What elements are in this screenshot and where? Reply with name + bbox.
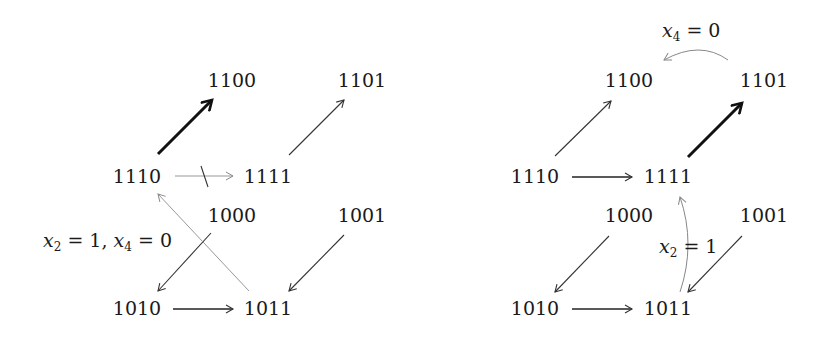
node-1001: 1001: [338, 204, 386, 226]
node-1000: 1000: [605, 204, 653, 226]
node-1110: 1110: [113, 165, 161, 187]
node-1111: 1111: [644, 165, 692, 187]
node-1101: 1101: [740, 69, 788, 91]
diagram-canvas: 1100 1101 1110 1111 1000 1001 1010 1011 …: [0, 0, 822, 344]
left-diagram: 1100 1101 1110 1111 1000 1001 1010 1011 …: [43, 69, 386, 319]
node-1010: 1010: [511, 297, 559, 319]
node-1011: 1011: [244, 297, 292, 319]
node-1000: 1000: [208, 204, 256, 226]
edge-1110-1100: [555, 101, 611, 156]
edge-1000-1010: [555, 236, 609, 292]
node-1100: 1100: [208, 69, 256, 91]
edge-1110-1100-bold: [158, 100, 212, 154]
node-1111: 1111: [244, 165, 292, 187]
annotation-mid: x2 = 1: [659, 235, 717, 260]
node-1010: 1010: [113, 297, 161, 319]
node-1011: 1011: [644, 297, 692, 319]
edge-1101-1100-curved: [664, 50, 728, 60]
edge-1111-1101: [289, 100, 344, 155]
annotation-left: x2 = 1, x4 = 0: [43, 229, 172, 254]
annotation-top: x4 = 0: [662, 19, 720, 44]
edge-1111-1101-bold: [688, 103, 742, 157]
node-1001: 1001: [740, 204, 788, 226]
right-diagram: 1100 1101 1110 1111 1000 1001 1010 1011 …: [511, 19, 788, 319]
edge-1001-1011: [289, 235, 344, 291]
node-1100: 1100: [605, 69, 653, 91]
node-1101: 1101: [338, 69, 386, 91]
node-1110: 1110: [511, 165, 559, 187]
